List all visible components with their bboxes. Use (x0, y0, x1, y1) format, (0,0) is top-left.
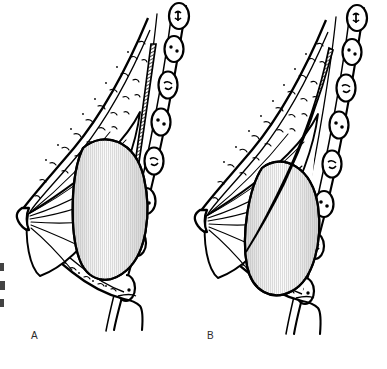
anatomical-figure-canvas (0, 0, 387, 369)
clipped-caption-fragment (0, 299, 4, 307)
rib-cross-section (165, 36, 184, 62)
rib-cross-section (347, 5, 367, 31)
rib-cross-section (330, 112, 349, 139)
rib-cross-section (152, 109, 171, 136)
rib-cross-section (337, 75, 356, 102)
rib-cross-section (323, 151, 342, 178)
rib-cross-section (343, 39, 362, 65)
clipped-caption-fragment (0, 281, 5, 290)
panel-label-b: B (207, 330, 214, 341)
rib-cross-section (159, 72, 178, 99)
rib-cross-section (145, 148, 164, 175)
panel-label-a: A (31, 330, 38, 341)
rib-cross-section (169, 3, 189, 29)
clipped-caption-fragment (0, 263, 4, 271)
